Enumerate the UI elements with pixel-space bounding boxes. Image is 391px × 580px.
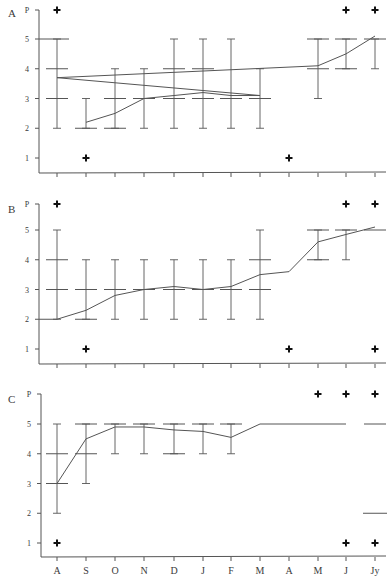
cross-marker — [54, 201, 61, 208]
panel-label: A — [8, 7, 16, 19]
x-axis — [39, 172, 386, 173]
y-tick-label: 5 — [25, 35, 29, 44]
x-tick-label: A — [53, 565, 61, 576]
cross-marker — [343, 391, 350, 398]
mean-line — [39, 227, 375, 319]
x-tick-label: O — [111, 565, 118, 576]
cross-marker — [54, 540, 61, 547]
mean-line — [57, 36, 375, 122]
cross-marker — [372, 346, 379, 353]
y-tick-label: 4 — [25, 256, 29, 265]
y-tick-label: 3 — [25, 95, 29, 104]
panel-a: A12345P — [8, 6, 386, 177]
cross-marker — [343, 540, 350, 547]
y-tick-label: 3 — [27, 480, 31, 489]
y-tick-label: P — [25, 6, 30, 15]
cross-marker — [372, 201, 379, 208]
x-tick-label: A — [285, 565, 293, 576]
cross-marker — [83, 346, 90, 353]
panel-c: C12345P — [8, 390, 387, 561]
y-tick-label: 1 — [25, 345, 29, 354]
y-tick-label: 5 — [25, 226, 29, 235]
cross-marker — [372, 391, 379, 398]
x-axis — [39, 363, 386, 364]
chart-figure: A12345PB12345PC12345PASONDJFMAMJJy — [0, 0, 391, 580]
panel-b: B12345P — [8, 200, 386, 368]
panel-label: C — [8, 393, 15, 405]
x-axis — [41, 556, 386, 557]
y-tick-label: 4 — [25, 65, 29, 74]
y-tick-label: 1 — [27, 539, 31, 548]
x-tick-label: N — [140, 565, 147, 576]
y-tick-label: P — [25, 200, 30, 209]
cross-marker — [372, 7, 379, 14]
x-tick-label: J — [201, 565, 205, 576]
y-tick-label: 5 — [27, 420, 31, 429]
cross-marker — [286, 155, 293, 162]
chart-canvas: A12345PB12345PC12345PASONDJFMAMJJy — [0, 0, 391, 580]
cross-marker — [343, 7, 350, 14]
x-tick-label: F — [228, 565, 234, 576]
cross-marker — [54, 7, 61, 14]
cross-marker — [343, 201, 350, 208]
panel-label: B — [8, 203, 15, 215]
y-tick-label: 2 — [25, 124, 29, 133]
x-tick-label: D — [170, 565, 177, 576]
cross-marker — [315, 391, 322, 398]
y-tick-label: 2 — [25, 315, 29, 324]
cross-marker — [83, 155, 90, 162]
y-tick-label: 1 — [25, 154, 29, 163]
y-tick-label: 4 — [27, 450, 31, 459]
cross-marker — [372, 540, 379, 547]
x-tick-label: M — [256, 565, 265, 576]
y-tick-label: P — [27, 390, 32, 399]
x-tick-label: J — [344, 565, 348, 576]
x-tick-label: Jy — [371, 565, 380, 576]
x-tick-label: M — [314, 565, 323, 576]
cross-marker — [286, 346, 293, 353]
y-tick-label: 2 — [27, 509, 31, 518]
x-tick-label: S — [83, 565, 89, 576]
y-tick-label: 3 — [25, 286, 29, 295]
